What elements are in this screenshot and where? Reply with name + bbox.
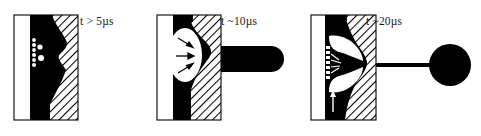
panel-3-content	[311, 15, 376, 120]
nucleus	[175, 45, 179, 48]
nucleus	[32, 48, 36, 52]
nucleus	[175, 50, 179, 53]
expanded-bubble	[168, 28, 202, 82]
nucleus	[175, 40, 179, 43]
top-cap-strip	[325, 15, 347, 22]
nucleus	[38, 55, 44, 61]
panel-stage-1	[0, 0, 150, 136]
top-cap-strip	[173, 15, 193, 22]
nucleus	[326, 71, 330, 74]
time-label-stage-3: t ~20µs	[366, 15, 402, 27]
nucleus	[32, 63, 36, 67]
nucleus	[32, 53, 36, 57]
time-label-stage-1: t > 5µs	[80, 15, 114, 27]
nucleus	[32, 43, 36, 47]
nucleus	[326, 46, 330, 49]
ejected-droplet	[429, 44, 471, 86]
nucleus	[175, 65, 179, 68]
figure-container: t > 5µs	[0, 0, 481, 136]
panel-1-content	[14, 15, 78, 120]
absorber-layer	[30, 15, 42, 120]
top-cap-strip	[30, 15, 52, 22]
nucleus	[175, 35, 179, 38]
panel-2-content	[157, 15, 221, 120]
panel-1-graphic	[0, 0, 150, 136]
nucleus	[175, 60, 179, 63]
nucleus	[37, 44, 42, 49]
nucleus	[326, 61, 330, 64]
time-label-stage-2: t ~10µs	[221, 15, 257, 27]
nucleus	[326, 56, 330, 59]
nucleus	[326, 76, 330, 79]
nucleus	[326, 66, 330, 69]
nucleus	[32, 38, 36, 42]
nucleus	[32, 58, 36, 62]
nucleus	[326, 51, 330, 54]
